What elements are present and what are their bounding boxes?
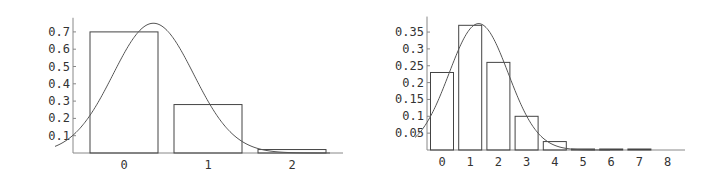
- x-tick-label: 2: [495, 155, 502, 169]
- y-tick-label: 0.1: [402, 109, 424, 123]
- y-tick-label: 0.35: [395, 25, 424, 39]
- density-curve: [415, 24, 610, 150]
- density-curve: [55, 23, 330, 153]
- y-tick-label: 0.4: [48, 77, 70, 91]
- x-tick-label: 6: [608, 155, 615, 169]
- x-tick-label: 5: [579, 155, 586, 169]
- y-tick-label: 0.3: [402, 42, 424, 56]
- x-tick-label: 8: [664, 155, 671, 169]
- x-tick-label: 0: [120, 158, 127, 172]
- y-tick-label: 0.7: [48, 25, 70, 39]
- bar: [487, 62, 510, 150]
- y-tick-label: 0.25: [395, 59, 424, 73]
- left-chart-plot: 0.10.20.30.40.50.60.7012: [0, 0, 360, 179]
- bar: [90, 32, 158, 153]
- bar: [174, 105, 242, 153]
- bar: [628, 149, 651, 150]
- y-tick-label: 0.3: [48, 94, 70, 108]
- bar: [431, 72, 454, 150]
- left-chart: 0.10.20.30.40.50.60.7012: [0, 0, 360, 179]
- y-tick-label: 0.15: [395, 92, 424, 106]
- x-tick-label: 7: [636, 155, 643, 169]
- x-tick-label: 0: [438, 155, 445, 169]
- right-chart: 0.050.10.150.20.250.30.35012345678: [360, 0, 716, 179]
- x-tick-label: 1: [204, 158, 211, 172]
- x-tick-label: 4: [551, 155, 558, 169]
- y-tick-label: 0.6: [48, 42, 70, 56]
- bar: [459, 25, 482, 150]
- bar: [515, 116, 538, 150]
- y-tick-label: 0.5: [48, 60, 70, 74]
- right-chart-plot: 0.050.10.150.20.250.30.35012345678: [360, 0, 716, 179]
- x-tick-label: 2: [288, 158, 295, 172]
- y-tick-label: 0.2: [48, 111, 70, 125]
- x-tick-label: 1: [467, 155, 474, 169]
- y-tick-label: 0.2: [402, 76, 424, 90]
- x-tick-label: 3: [523, 155, 530, 169]
